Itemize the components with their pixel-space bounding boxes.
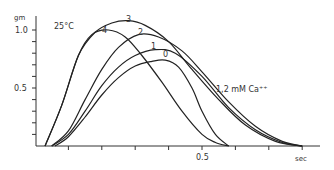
- curve-label-4: 4: [102, 26, 107, 35]
- y-tick-label-0.5: 0.5: [14, 84, 27, 93]
- curve-3: [45, 21, 302, 146]
- x-tick-label-0.5: 0.5: [196, 153, 209, 162]
- curves: [45, 21, 302, 146]
- curve-1: [52, 49, 303, 146]
- curve-label-2: 2: [138, 28, 143, 37]
- y-tick-label-1.0: 1.0: [15, 26, 28, 35]
- x-unit-label: sec: [295, 155, 307, 163]
- tension-curves-chart: 01234 gm 1.0 0.5 0.5 sec 25°C 1,2 mM Ca⁺…: [0, 0, 334, 170]
- temperature-annotation: 25°C: [54, 22, 74, 31]
- curve-label-0: 0: [163, 50, 168, 59]
- curve-label-3: 3: [126, 15, 131, 24]
- concentration-annotation: 1,2 mM Ca⁺⁺: [216, 85, 267, 94]
- y-unit-label: gm: [14, 14, 25, 22]
- curve-label-1: 1: [151, 42, 156, 51]
